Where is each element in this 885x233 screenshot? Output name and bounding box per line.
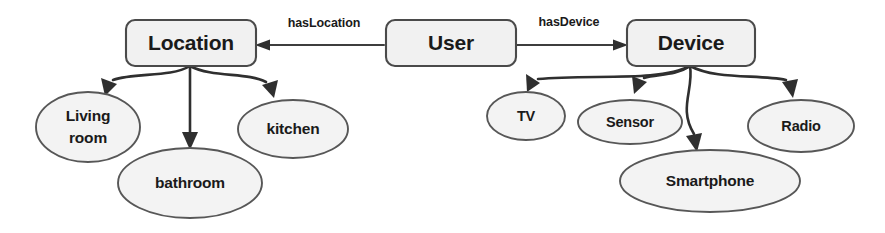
has-device-arrowhead [613,40,628,51]
instance-node-sensor[interactable]: Sensor [578,100,682,144]
sensor-label: Sensor [606,114,655,130]
branch-smartphone-arrowhead [686,133,702,152]
branch-device-radio [690,66,798,98]
branch-location-living-room [101,66,190,96]
branch-tv-line [538,66,690,79]
branch-location-bathroom [182,66,198,150]
branch-smartphone-line [687,66,694,134]
branch-device-sensor [632,66,690,94]
user-label: User [428,31,474,54]
diagram-svg: Location User Device hasLocation hasDevi… [0,0,885,233]
living-room-label-line1: Living [66,107,110,124]
instance-node-smartphone[interactable]: Smartphone [620,150,800,212]
instance-node-kitchen[interactable]: kitchen [238,100,348,158]
branch-radio-arrowhead [782,79,798,98]
bathroom-label: bathroom [155,174,225,191]
kitchen-label: kitchen [267,120,320,137]
living-room-label-line2: room [69,129,107,146]
class-node-device[interactable]: Device [627,20,755,66]
smartphone-label: Smartphone [666,172,755,189]
branch-tv-arrowhead [526,74,540,92]
has-location-edge-label: hasLocation [288,16,361,30]
has-device-edge-label: hasDevice [539,15,600,29]
edge-has-location [255,40,384,51]
branch-kitchen-arrowhead [262,80,278,98]
branch-location-kitchen [190,66,278,98]
has-location-arrowhead [255,40,270,51]
branch-living-room-line [113,66,190,80]
living-room-ellipse[interactable] [36,92,140,162]
location-label: Location [148,31,234,54]
class-node-location[interactable]: Location [126,20,256,66]
radio-label: Radio [781,118,821,134]
instance-node-living-room[interactable]: Living room [36,92,140,162]
class-node-user[interactable]: User [386,20,516,66]
instance-node-radio[interactable]: Radio [748,100,854,152]
instance-node-tv[interactable]: TV [487,92,565,140]
ontology-diagram-canvas: Location User Device hasLocation hasDevi… [0,0,885,233]
tv-label: TV [517,108,536,124]
instance-node-bathroom[interactable]: bathroom [118,148,262,218]
branch-radio-line [690,66,786,80]
device-label: Device [658,31,725,54]
branch-device-smartphone [686,66,702,152]
edge-has-device [516,40,628,51]
branch-kitchen-line [190,66,266,82]
branch-device-tv [526,66,690,92]
